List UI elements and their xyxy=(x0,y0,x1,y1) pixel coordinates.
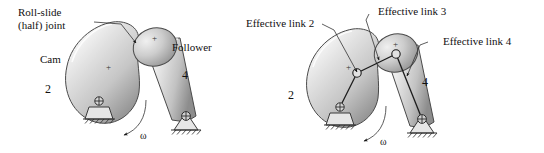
figure-canvas: + + xyxy=(0,0,544,153)
effective-joint-B xyxy=(353,69,361,77)
roll-slide-joint-label-line1: Roll-slide xyxy=(18,6,62,18)
cam-label: Cam xyxy=(40,53,61,65)
roll-slide-joint-label-line2: (half) joint xyxy=(18,19,65,32)
link-2-number-left: 2 xyxy=(45,82,51,96)
effective-link-3-label: Effective link 3 xyxy=(378,5,447,17)
omega-label-left: ω xyxy=(140,130,147,141)
mechanism-figure: + + xyxy=(0,0,544,153)
follower-label: Follower xyxy=(172,41,212,53)
follower-center-plus-marker-right: + xyxy=(393,39,398,49)
panel-left: + + xyxy=(18,6,212,141)
link-2-number-right: 2 xyxy=(288,88,294,102)
link-4-number-left: 4 xyxy=(182,68,188,82)
follower-center-plus-marker: + xyxy=(152,33,157,43)
effective-link-2-label: Effective link 2 xyxy=(246,17,314,29)
effective-joint-C xyxy=(392,50,400,58)
cam-center-plus-marker: + xyxy=(106,62,111,72)
effective-link-4-label: Effective link 4 xyxy=(443,35,512,47)
link-4-number-right: 4 xyxy=(422,75,428,89)
panel-right: + + xyxy=(246,5,512,147)
cam-center-plus-marker-right: + xyxy=(346,62,351,72)
omega-label-right: ω xyxy=(380,136,387,147)
